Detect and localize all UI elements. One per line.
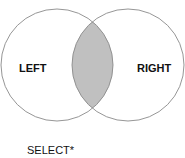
right-label: RIGHT	[137, 63, 171, 74]
caption: SELECT*	[27, 145, 74, 156]
venn-diagram	[0, 0, 185, 158]
left-label: LEFT	[19, 63, 47, 74]
